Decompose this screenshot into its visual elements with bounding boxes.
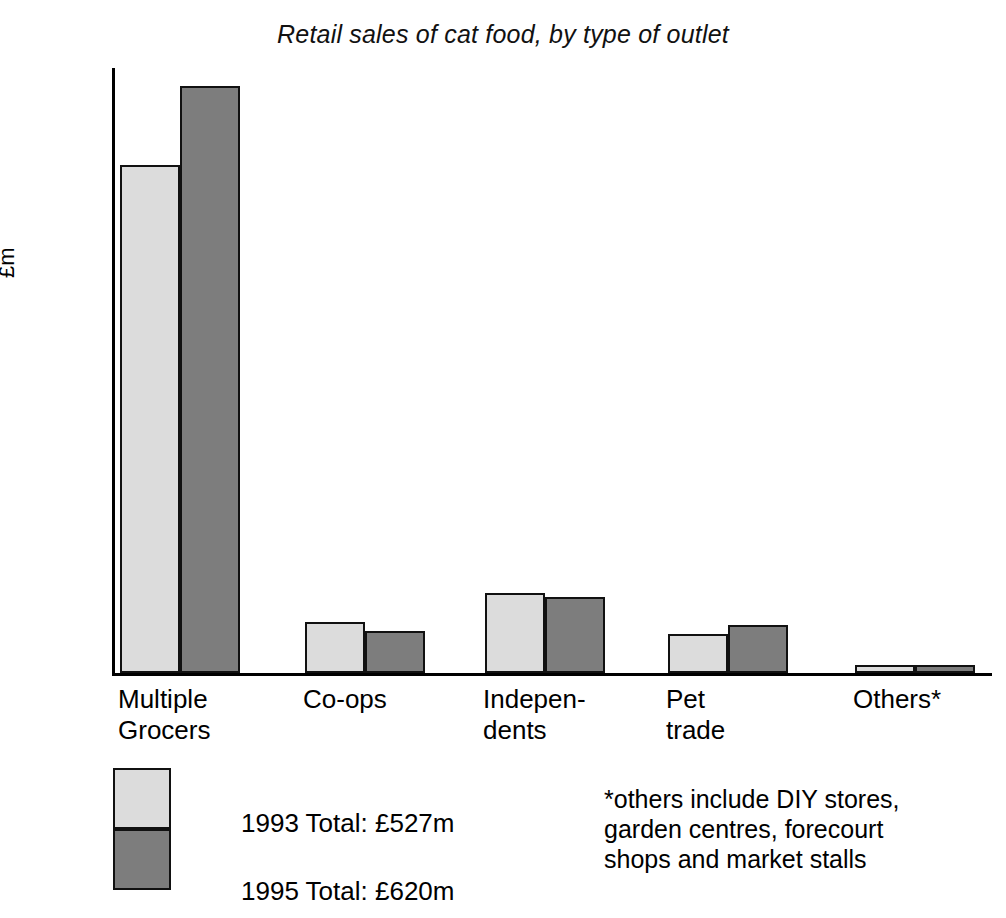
bar-1995-group-3 bbox=[545, 597, 605, 673]
x-category-label-3: Indepen- dents bbox=[483, 684, 673, 746]
x-category-label-1: Multiple Grocers bbox=[118, 684, 308, 746]
y-axis-title: £m bbox=[0, 247, 20, 278]
bar-1995-group-4 bbox=[728, 625, 788, 673]
bar-1995-group-5 bbox=[915, 665, 975, 673]
chart-figure: Retail sales of cat food, by type of out… bbox=[0, 0, 1006, 918]
bar-1993-group-5 bbox=[855, 665, 915, 673]
chart-legend: 1993 Total: £527m 1995 Total: £620m bbox=[113, 768, 533, 908]
bar-1993-group-3 bbox=[485, 593, 545, 673]
bar-1995-group-1 bbox=[180, 86, 240, 673]
legend-swatch-1993 bbox=[113, 768, 171, 829]
legend-label-1995: 1995 Total: £620m bbox=[241, 878, 454, 904]
plot-area bbox=[112, 60, 992, 675]
chart-title: Retail sales of cat food, by type of out… bbox=[0, 20, 1006, 49]
bar-1993-group-2 bbox=[305, 622, 365, 673]
y-axis-line bbox=[112, 68, 115, 673]
x-category-label-2: Co-ops bbox=[303, 684, 493, 715]
x-category-label-5: Others* bbox=[853, 684, 1006, 715]
bar-1993-group-1 bbox=[120, 165, 180, 673]
legend-swatch-1995 bbox=[113, 829, 171, 890]
bar-1995-group-2 bbox=[365, 631, 425, 673]
footnote-text: *others include DIY stores, garden centr… bbox=[604, 784, 974, 874]
legend-label-1993: 1993 Total: £527m bbox=[241, 810, 454, 836]
bar-1993-group-4 bbox=[668, 634, 728, 673]
x-category-label-4: Pet trade bbox=[666, 684, 856, 746]
x-axis-line bbox=[112, 673, 992, 676]
